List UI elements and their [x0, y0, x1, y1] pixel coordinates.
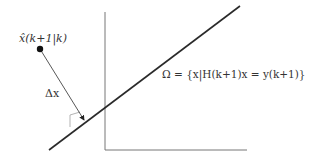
point-label: x̂(k+1|k) — [19, 32, 67, 46]
predicted-state-point — [37, 46, 43, 52]
projection-arrow — [40, 49, 84, 120]
delta-label: Δx — [45, 87, 60, 100]
projection-diagram: x̂(k+1|k) Δx Ω = {x|H(k+1)x = y(k+1)} — [0, 0, 309, 160]
set-label: Ω = {x|H(k+1)x = y(k+1)} — [162, 68, 306, 82]
right-angle-marker — [70, 112, 80, 127]
